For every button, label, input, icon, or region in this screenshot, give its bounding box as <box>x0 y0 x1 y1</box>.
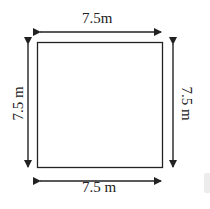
edge-artifact <box>204 173 210 193</box>
right-dimension-label: 7.5 m <box>179 84 194 124</box>
left-dimension-label: 7.5 m <box>11 84 26 124</box>
top-dimension-label: 7.5m <box>82 11 112 26</box>
square <box>38 43 163 168</box>
bottom-dimension-label: 7.5 m <box>82 180 116 195</box>
